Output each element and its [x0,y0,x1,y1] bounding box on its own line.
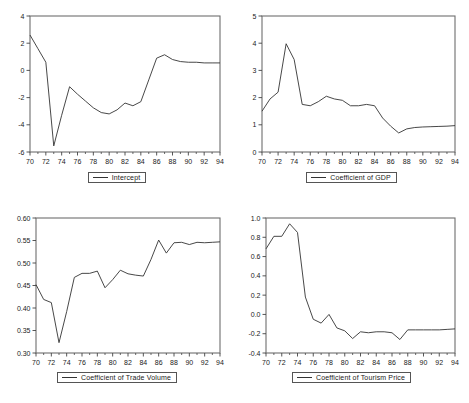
plot-frame [266,218,455,353]
y-tick-label: 0.35 [17,327,31,334]
y-tick-label: 0.55 [17,237,31,244]
legend-label-trade-volume: Coefficient of Trade Volume [81,374,171,381]
panel-trade-volume: 0.300.350.400.450.500.550.60707274767880… [0,200,234,403]
x-tick-label: 70 [262,359,270,366]
x-tick-label: 88 [403,158,411,165]
y-tick-label: 0.40 [17,305,31,312]
y-tick-label: -0.4 [248,350,260,357]
legend-line-icon [311,177,326,178]
chart-grid: -6-4-202470727476788082848688909294 Inte… [0,0,469,403]
y-tick-label: 0.2 [251,292,261,299]
legend-line-icon [93,177,108,178]
x-tick-label: 70 [32,359,40,366]
x-tick-label: 78 [89,158,97,165]
x-tick-label: 92 [200,158,208,165]
panel-tourism-price: -0.4-0.20.00.20.40.60.81.070727476788082… [234,200,469,403]
x-tick-label: 80 [109,359,117,366]
x-tick-label: 72 [278,359,286,366]
x-tick-label: 86 [387,158,395,165]
y-tick-label: -2 [18,94,24,101]
x-tick-label: 88 [170,359,178,366]
y-tick-label: 0.50 [17,260,31,267]
x-tick-label: 78 [322,158,330,165]
x-tick-label: 70 [258,158,266,165]
x-tick-label: 76 [306,158,314,165]
x-tick-label: 94 [216,158,224,165]
x-tick-label: 94 [451,359,459,366]
x-tick-label: 72 [42,158,50,165]
data-line [36,240,220,343]
y-tick-label: 0.8 [251,234,261,241]
x-tick-label: 88 [169,158,177,165]
x-tick-label: 92 [201,359,209,366]
plot-area-gdp: 01234570727476788082848688909294 [234,0,469,200]
plot-frame [30,16,220,152]
y-tick-label: 0.60 [17,215,31,222]
y-tick-label: 0.45 [17,282,31,289]
x-tick-label: 94 [451,158,459,165]
x-tick-label: 72 [47,359,55,366]
chart-svg-trade-volume: 0.300.350.400.450.500.550.60707274767880… [0,200,234,375]
x-tick-label: 70 [26,158,34,165]
x-tick-label: 94 [216,359,224,366]
y-tick-label: 0.6 [251,253,261,260]
legend-line-icon [297,377,312,378]
y-tick-label: -6 [18,149,24,156]
x-tick-label: 82 [357,359,365,366]
x-tick-label: 88 [404,359,412,366]
legend-trade-volume: Coefficient of Trade Volume [0,372,234,383]
legend-intercept: Intercept [0,172,234,183]
x-tick-label: 86 [388,359,396,366]
legend-label-intercept: Intercept [112,174,141,181]
x-tick-label: 74 [290,158,298,165]
x-tick-label: 76 [78,359,86,366]
data-line [262,44,455,133]
legend-label-gdp: Coefficient of GDP [330,174,391,181]
legend-box-intercept: Intercept [88,172,147,183]
x-tick-label: 76 [74,158,82,165]
y-tick-label: 5 [253,13,257,20]
x-tick-label: 90 [419,158,427,165]
chart-svg-intercept: -6-4-202470727476788082848688909294 [0,0,234,172]
legend-tourism-price: Coefficient of Tourism Price [234,372,469,383]
x-tick-label: 84 [371,158,379,165]
x-tick-label: 90 [184,158,192,165]
x-tick-label: 92 [435,359,443,366]
panel-gdp: 01234570727476788082848688909294 Coeffic… [234,0,469,200]
y-tick-label: 0.0 [251,311,261,318]
y-tick-label: 3 [253,67,257,74]
x-tick-label: 82 [124,359,132,366]
plot-frame [262,16,455,152]
y-tick-label: 4 [253,40,257,47]
x-tick-label: 90 [185,359,193,366]
y-tick-label: 1 [253,121,257,128]
legend-label-tourism-price: Coefficient of Tourism Price [316,374,405,381]
data-line [266,224,455,340]
x-tick-label: 76 [309,359,317,366]
x-tick-label: 90 [420,359,428,366]
x-tick-label: 82 [355,158,363,165]
x-tick-label: 84 [137,158,145,165]
y-tick-label: -4 [18,121,24,128]
x-tick-label: 84 [139,359,147,366]
x-tick-label: 80 [105,158,113,165]
y-tick-label: 0.4 [251,272,261,279]
legend-gdp: Coefficient of GDP [234,172,469,183]
legend-box-tourism-price: Coefficient of Tourism Price [292,372,411,383]
x-tick-label: 80 [341,359,349,366]
x-tick-label: 72 [274,158,282,165]
chart-svg-tourism-price: -0.4-0.20.00.20.40.60.81.070727476788082… [234,200,469,375]
legend-box-gdp: Coefficient of GDP [306,172,397,183]
chart-svg-gdp: 01234570727476788082848688909294 [234,0,469,172]
x-tick-label: 74 [63,359,71,366]
plot-frame [36,218,220,353]
x-tick-label: 78 [93,359,101,366]
y-tick-label: 4 [21,13,25,20]
plot-area-intercept: -6-4-202470727476788082848688909294 [0,0,234,200]
panel-intercept: -6-4-202470727476788082848688909294 Inte… [0,0,234,200]
y-tick-label: 0 [253,149,257,156]
x-tick-label: 86 [153,158,161,165]
y-tick-label: 2 [253,94,257,101]
y-tick-label: 1.0 [251,215,261,222]
y-tick-label: 0 [21,67,25,74]
